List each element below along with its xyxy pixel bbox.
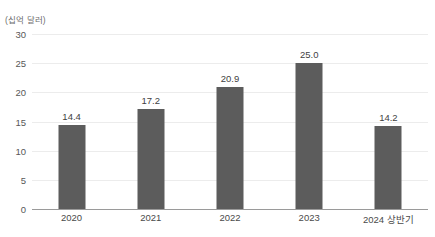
bar-group: 14.2 (349, 34, 428, 209)
x-axis-baseline (32, 209, 428, 210)
bar-value-label: 25.0 (300, 49, 319, 60)
bar-chart: (십억 달러) 051015202530 14.417.220.925.014.… (0, 0, 435, 237)
y-axis-unit-caption: (십억 달러) (5, 13, 46, 25)
x-axis-tick-label: 2020 (61, 212, 82, 223)
bar[interactable] (375, 126, 402, 209)
x-axis-tick-label: 2021 (140, 212, 161, 223)
bar-group: 14.4 (32, 34, 111, 209)
x-axis: 20202021202220232024 상반기 (32, 212, 428, 232)
bar-group: 25.0 (270, 34, 349, 209)
x-axis-tick-label: 2023 (299, 212, 320, 223)
y-axis-tick-label: 15 (2, 116, 26, 127)
bar-group: 20.9 (190, 34, 269, 209)
bar[interactable] (296, 63, 323, 209)
bar-value-label: 14.2 (379, 112, 398, 123)
bar[interactable] (216, 87, 243, 209)
x-axis-tick-label: 2022 (219, 212, 240, 223)
bar[interactable] (58, 125, 85, 209)
x-axis-tick-label: 2024 상반기 (363, 212, 414, 226)
y-axis-tick-label: 25 (2, 58, 26, 69)
bar-value-label: 14.4 (62, 111, 81, 122)
bar[interactable] (137, 109, 164, 209)
bar-group: 17.2 (111, 34, 190, 209)
y-axis-tick-label: 30 (2, 29, 26, 40)
bars-layer: 14.417.220.925.014.2 (32, 34, 428, 209)
y-axis: 051015202530 (0, 34, 26, 209)
y-axis-tick-label: 20 (2, 87, 26, 98)
bar-value-label: 17.2 (142, 95, 161, 106)
y-axis-tick-label: 10 (2, 145, 26, 156)
y-axis-tick-label: 5 (2, 174, 26, 185)
y-axis-tick-label: 0 (2, 204, 26, 215)
bar-value-label: 20.9 (221, 73, 240, 84)
